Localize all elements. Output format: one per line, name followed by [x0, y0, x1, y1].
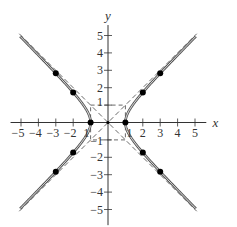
x-tick-label: 1: [84, 126, 90, 140]
y-axis-label: y: [103, 8, 111, 23]
hyperbola-chart: −5−4−3−2112345−5−4−3−2−112345xy: [0, 0, 237, 227]
y-tick-label: −1: [90, 134, 103, 148]
x-tick-label: −2: [64, 126, 77, 140]
x-tick-label: 4: [175, 126, 181, 140]
origin-point: [106, 121, 109, 124]
data-point: [157, 169, 163, 175]
data-point: [157, 70, 163, 76]
data-point: [140, 89, 146, 95]
y-tick-label: −3: [90, 168, 103, 182]
y-tick-label: 4: [97, 46, 103, 60]
y-tick-label: −5: [90, 203, 103, 217]
y-tick-label: −4: [90, 185, 103, 199]
data-point: [53, 70, 59, 76]
x-tick-label: 5: [192, 126, 198, 140]
x-tick-label: −4: [29, 126, 42, 140]
x-tick-label: 1: [126, 126, 132, 140]
x-tick-label: −3: [46, 126, 59, 140]
x-tick-label: 3: [157, 126, 163, 140]
y-tick-label: −2: [90, 150, 103, 164]
y-tick-label: 3: [97, 63, 103, 77]
data-point: [70, 89, 76, 95]
x-tick-label: 2: [140, 126, 146, 140]
x-axis-label: x: [211, 115, 218, 130]
data-point: [70, 150, 76, 156]
x-tick-label: −5: [12, 126, 25, 140]
y-tick-label: 5: [97, 29, 103, 43]
y-tick-label: 2: [97, 81, 103, 95]
data-point: [53, 169, 59, 175]
data-point: [140, 150, 146, 156]
y-tick-label: 1: [97, 95, 103, 109]
